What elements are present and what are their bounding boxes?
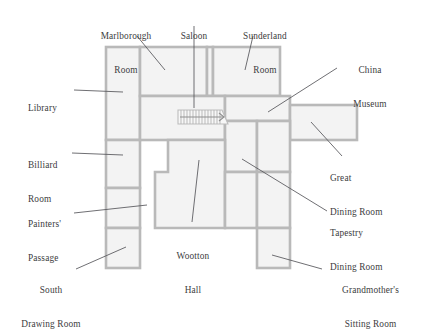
label-library: Library <box>28 80 88 137</box>
room-tapestry-east[interactable] <box>257 121 290 172</box>
room-grandmothers-sitting[interactable] <box>257 228 290 268</box>
label-line-1: Library <box>28 103 88 114</box>
label-line-1: South <box>2 285 100 296</box>
label-line-2: Museum <box>330 99 410 110</box>
room-lower-center-right[interactable] <box>225 172 257 228</box>
label-line-1: Painters' <box>28 219 98 230</box>
label-line-1: Billiard <box>28 160 94 171</box>
label-south-drawing-room: South Drawing Room <box>2 262 100 333</box>
room-billiard[interactable] <box>106 140 140 188</box>
room-china-museum[interactable] <box>225 96 290 121</box>
label-line-1: Marlborough <box>79 31 173 42</box>
label-line-2: Drawing Room <box>2 319 100 330</box>
label-sunderland-room: Sunderland Room <box>222 8 308 99</box>
room-lower-right[interactable] <box>257 172 290 228</box>
label-line-2: Sitting Room <box>320 319 421 330</box>
label-line-1: China <box>330 65 410 76</box>
label-line-1: Tapestry <box>330 228 422 239</box>
staircase-icon <box>178 110 228 124</box>
label-line-1: Sunderland <box>222 31 308 42</box>
label-marlborough-room: Marlborough Room <box>79 8 173 99</box>
label-line-2: Room <box>222 65 308 76</box>
label-line-1: Saloon <box>160 31 228 42</box>
room-tapestry-dining[interactable] <box>225 121 257 172</box>
label-line-1: Great <box>330 173 422 184</box>
label-saloon: Saloon <box>160 8 228 65</box>
label-china-museum: China Museum <box>330 42 410 133</box>
label-wootton-hall: Wootton Hall <box>155 228 231 319</box>
label-line-2: Room <box>79 65 173 76</box>
label-line-2: Hall <box>155 285 231 296</box>
label-grandmothers-sitting-room: Grandmother's Sitting Room <box>320 262 421 333</box>
label-line-1: Grandmother's <box>320 285 421 296</box>
room-wootton-hall[interactable] <box>155 140 225 228</box>
label-line-1: Wootton <box>155 251 231 262</box>
